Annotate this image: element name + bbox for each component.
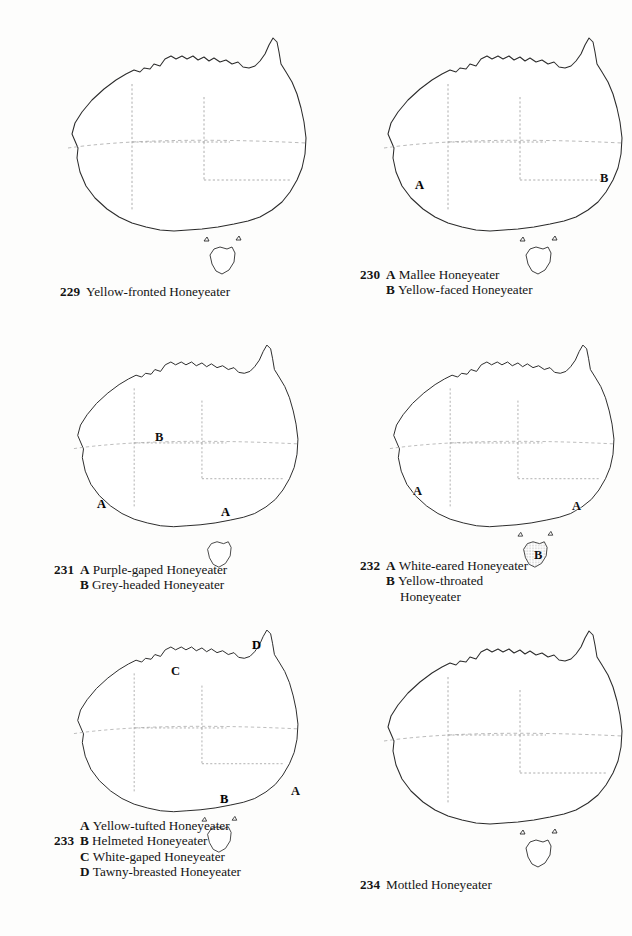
map-panel-233: D C A B A Yellow-tufted Honeyeater 233B … bbox=[24, 615, 314, 915]
caption-text: Yellow-fronted Honeyeater bbox=[86, 284, 230, 299]
tasmania-234 bbox=[526, 840, 551, 867]
caption-230: 230A Mallee Honeyeater B Yellow-faced Ho… bbox=[360, 267, 533, 298]
caption-text: Mallee Honeyeater bbox=[399, 267, 500, 282]
caption-letter: A bbox=[386, 558, 396, 573]
map-232 bbox=[340, 330, 630, 570]
caption-number: 232 bbox=[360, 558, 386, 573]
tasmania-229 bbox=[210, 247, 235, 274]
caption-letter: C bbox=[80, 849, 90, 864]
guide-page: 229Yellow-fronted Honeyeater bbox=[0, 0, 632, 936]
caption-line: B Grey-headed Honeyeater bbox=[54, 577, 227, 592]
caption-234: 234Mottled Honeyeater bbox=[360, 877, 492, 892]
caption-229: 229Yellow-fronted Honeyeater bbox=[60, 284, 230, 299]
caption-letter: B bbox=[386, 573, 395, 588]
caption-letter: B bbox=[80, 577, 89, 592]
map-231 bbox=[24, 330, 314, 570]
caption-letter: A bbox=[80, 818, 90, 833]
caption-text: Yellow-throated bbox=[398, 573, 483, 588]
map-panel-232: A A B 232A White-eared Honeyeater B Yell… bbox=[340, 330, 630, 620]
caption-letter: D bbox=[80, 864, 90, 879]
map-230 bbox=[340, 22, 630, 277]
caption-text: Honeyeater bbox=[400, 589, 461, 604]
caption-number: 231 bbox=[54, 562, 80, 577]
caption-line: 233B Helmeted Honeyeater bbox=[54, 833, 241, 848]
caption-line: C White-gaped Honeyeater bbox=[54, 849, 241, 864]
caption-letter: B bbox=[80, 833, 89, 848]
caption-233: A Yellow-tufted Honeyeater 233B Helmeted… bbox=[54, 818, 241, 880]
caption-text: Helmeted Honeyeater bbox=[92, 833, 207, 848]
caption-number: 229 bbox=[60, 284, 86, 299]
caption-line: B Yellow-throated bbox=[360, 573, 528, 588]
caption-line: B Yellow-faced Honeyeater bbox=[360, 282, 533, 297]
map-panel-230: A B 230A Mallee Honeyeater B Yellow-face… bbox=[340, 22, 630, 322]
map-229 bbox=[24, 22, 314, 277]
caption-231: 231A Purple-gaped Honeyeater B Grey-head… bbox=[54, 562, 227, 593]
caption-letter: A bbox=[386, 267, 396, 282]
map-panel-234: 234Mottled Honeyeater bbox=[340, 615, 630, 915]
caption-line: Honeyeater bbox=[360, 589, 528, 604]
caption-line: 234Mottled Honeyeater bbox=[360, 877, 492, 892]
map-234 bbox=[340, 615, 630, 870]
caption-text: Mottled Honeyeater bbox=[386, 877, 492, 892]
caption-232: 232A White-eared Honeyeater B Yellow-thr… bbox=[360, 558, 528, 604]
caption-text: Tawny-breasted Honeyeater bbox=[93, 864, 241, 879]
caption-line: 232A White-eared Honeyeater bbox=[360, 558, 528, 573]
caption-text: Yellow-faced Honeyeater bbox=[398, 282, 533, 297]
caption-number: 234 bbox=[360, 877, 386, 892]
caption-text: Grey-headed Honeyeater bbox=[92, 577, 224, 592]
map-panel-229: 229Yellow-fronted Honeyeater bbox=[24, 22, 314, 322]
caption-line: A Yellow-tufted Honeyeater bbox=[54, 818, 241, 833]
caption-line: 231A Purple-gaped Honeyeater bbox=[54, 562, 227, 577]
caption-text: Purple-gaped Honeyeater bbox=[93, 562, 227, 577]
caption-number: 230 bbox=[360, 267, 386, 282]
caption-line: D Tawny-breasted Honeyeater bbox=[54, 864, 241, 879]
caption-letter: A bbox=[80, 562, 90, 577]
caption-number: 233 bbox=[54, 833, 80, 848]
caption-text: Yellow-tufted Honeyeater bbox=[93, 818, 230, 833]
caption-line: 230A Mallee Honeyeater bbox=[360, 267, 533, 282]
caption-text: White-gaped Honeyeater bbox=[93, 849, 225, 864]
caption-line: 229Yellow-fronted Honeyeater bbox=[60, 284, 230, 299]
map-panel-231: B A A 231A Purple-gaped Honeyeater B Gre… bbox=[24, 330, 314, 620]
caption-text: White-eared Honeyeater bbox=[399, 558, 528, 573]
caption-letter: B bbox=[386, 282, 395, 297]
